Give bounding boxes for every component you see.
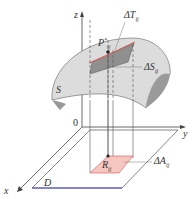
y-axis-label: y xyxy=(183,129,187,139)
surface-label: S xyxy=(56,85,61,95)
point-r xyxy=(106,154,109,157)
z-arrow-icon xyxy=(80,11,84,17)
diagram-graphic xyxy=(0,0,195,199)
x-axis-label: x xyxy=(4,186,8,196)
rect-rij xyxy=(90,156,133,173)
surface-area-diagram: z y x 0 S D ΔTij ΔSij P*ij Rij ΔAij xyxy=(0,0,195,199)
surface-left-edge xyxy=(52,100,66,110)
rect-label: Rij xyxy=(102,160,111,172)
tangent-patch-label: ΔTij xyxy=(124,10,139,22)
area-label: ΔAij xyxy=(154,156,169,168)
region-label: D xyxy=(44,178,51,188)
point-p xyxy=(106,50,110,54)
z-axis-label: z xyxy=(74,10,78,20)
surface-patch-label: ΔSij xyxy=(144,62,158,74)
point-label: P*ij xyxy=(98,37,110,50)
origin-label: 0 xyxy=(73,118,78,128)
